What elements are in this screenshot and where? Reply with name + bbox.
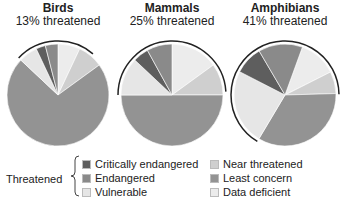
brace-icon: [70, 155, 80, 197]
swatch-near-threatened: [210, 160, 219, 169]
legend-label: Least concern: [223, 172, 292, 185]
pie-amphibians: [231, 41, 339, 146]
swatch-vulnerable: [82, 188, 91, 197]
pie-charts: [0, 0, 342, 150]
swatch-critically-endangered: [82, 160, 91, 169]
pie-birds: [7, 41, 109, 146]
swatch-least-concern: [210, 174, 219, 183]
pie-slice: [121, 95, 223, 146]
legend-label: Data deficient: [223, 186, 290, 199]
legend-label: Near threatened: [223, 158, 303, 171]
swatch-data-deficient: [210, 188, 219, 197]
swatch-endangered: [82, 174, 91, 183]
legend-group-label: Threatened: [6, 173, 62, 185]
legend-label: Endangered: [95, 172, 155, 185]
legend-label: Vulnerable: [95, 186, 147, 199]
pie-mammals: [118, 41, 226, 146]
legend-label: Critically endangered: [95, 158, 198, 171]
